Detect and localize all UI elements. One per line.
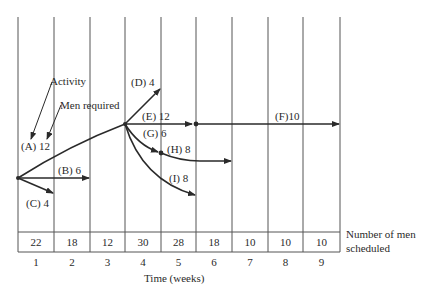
week-tick-9: 9 [303, 256, 340, 268]
activity-label-c: (C) 4 [26, 197, 49, 209]
activity-label-a: (A) 12 [21, 140, 50, 152]
week-tick-7: 7 [232, 256, 268, 268]
week-grid-lines [18, 17, 340, 252]
arrow-activity-c [18, 178, 53, 193]
week-tick-1: 1 [18, 256, 54, 268]
week-tick-8: 8 [268, 256, 303, 268]
men-scheduled-week-1: 22 [18, 233, 54, 252]
men-scheduled-week-2: 18 [54, 233, 90, 252]
activity-label-d: (D) 4 [131, 76, 155, 88]
activity-annotation: Activity [50, 75, 86, 87]
node-g-end [159, 151, 164, 156]
week-tick-6: 6 [196, 256, 232, 268]
week-tick-5: 5 [161, 256, 196, 268]
men-scheduled-week-5: 28 [161, 233, 196, 252]
week-tick-4: 4 [125, 256, 161, 268]
activity-label-f: (F)10 [275, 110, 299, 122]
activity-label-g: (G) 6 [143, 127, 167, 139]
week-tick-2: 2 [54, 256, 90, 268]
activity-label-b: (B) 6 [58, 164, 81, 176]
men-scheduled-week-9: 10 [303, 233, 340, 252]
activity-label-h: (H) 8 [167, 143, 191, 155]
men-scheduled-week-8: 10 [268, 233, 303, 252]
week-tick-3: 3 [90, 256, 125, 268]
men-required-annotation: Men required [60, 99, 120, 111]
activity-label-i: (I) 8 [169, 172, 188, 184]
node-e-end [194, 122, 199, 127]
activity-label-e: (E) 12 [142, 110, 170, 122]
men-scheduled-week-3: 12 [90, 233, 125, 252]
men-scheduled-row-label-1: Number of men [346, 228, 416, 240]
node-start [16, 176, 20, 180]
men-scheduled-week-4: 30 [125, 233, 161, 252]
x-axis-label: Time (weeks) [144, 272, 204, 284]
activity-leader-line [31, 82, 52, 139]
node-week3 [123, 122, 127, 126]
men-scheduled-week-7: 10 [232, 233, 268, 252]
men-scheduled-week-6: 18 [196, 233, 232, 252]
men-scheduled-row-label-2: scheduled [346, 242, 390, 254]
